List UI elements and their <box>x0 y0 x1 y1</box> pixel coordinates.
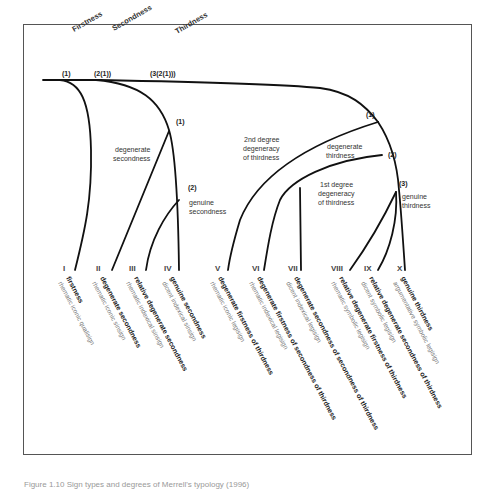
annotation-genuine-thirdness: genuine thirdness <box>402 193 431 209</box>
annotation-line: degenerate <box>327 143 363 151</box>
annotation-line: genuine <box>189 199 214 207</box>
roman-numeral: III <box>129 264 136 273</box>
roman-numeral: I <box>63 264 65 273</box>
roman-numeral: V <box>215 264 221 273</box>
class-name: degenerate secondness of secondness of t… <box>292 275 380 431</box>
sign-class-III: III relative degenerate secondness rhema… <box>124 264 189 373</box>
roman-numeral: VIII <box>331 264 343 273</box>
annotation-line: degeneracy <box>318 190 355 198</box>
annotation-degenerate-thirdness: degenerate thirdness <box>326 143 363 159</box>
thirdness-node-2: (2) <box>388 151 397 159</box>
annotation-line: secondness <box>189 208 227 215</box>
annotation-line: 1st degree <box>320 181 353 189</box>
roman-numeral: IX <box>364 264 372 273</box>
annotation-line: degenerate <box>115 146 151 154</box>
branch-thirdness <box>378 122 405 270</box>
secondness-node-2: (2) <box>188 184 197 192</box>
annotation-1st-degree-degeneracy: 1st degree degeneracy of thirdness <box>318 181 355 206</box>
annotation-line: of thirdness <box>318 199 355 206</box>
roman-numeral: VI <box>252 264 260 273</box>
thirdness-node-3: (3) <box>399 180 408 188</box>
branch-III <box>146 200 179 270</box>
roman-numeral: II <box>96 264 100 273</box>
roman-numeral: X <box>397 264 403 273</box>
branch-VI <box>264 155 382 270</box>
node-1: (1) <box>62 70 71 78</box>
annotation-genuine-secondness: genuine secondness <box>189 199 227 215</box>
annotation-line: 2nd degree <box>244 136 280 144</box>
sign-class-X: X genuine thirdness argumentative symbol… <box>391 264 441 366</box>
category-firstness: Firstness <box>71 9 104 33</box>
branch-VII <box>300 188 301 270</box>
node-3-2-1: (3(2(1))) <box>150 70 176 78</box>
branch-I <box>60 80 91 270</box>
node-2-1: (2(1)) <box>94 70 111 78</box>
category-thirdness: Thirdness <box>174 10 210 36</box>
annotation-degenerate-secondness: degenerate secondness <box>113 146 151 162</box>
annotation-line: thirdness <box>402 202 431 209</box>
annotation-2nd-degree-degeneracy: 2nd degree degeneracy of thirdness <box>243 136 280 161</box>
branch-VIII <box>350 192 396 270</box>
trunk-line <box>43 80 378 122</box>
annotation-line: degeneracy <box>243 145 280 153</box>
category-secondness: Secondness <box>111 3 154 33</box>
branch-secondness <box>96 80 179 270</box>
sign-class-I: I firstness rhematic iconic qualisign <box>56 264 96 347</box>
thirdness-node-1: (1) <box>366 111 375 119</box>
annotation-line: of thirdness <box>243 154 280 161</box>
category-labels: Firstness Secondness Thirdness <box>71 3 210 36</box>
roman-numeral: VII <box>288 264 298 273</box>
roman-numeral: IV <box>164 264 172 273</box>
annotation-line: genuine <box>402 193 427 201</box>
annotation-line: thirdness <box>326 152 355 159</box>
secondness-node-1: (1) <box>176 118 185 126</box>
annotation-line: secondness <box>113 155 151 162</box>
branch-IX <box>378 192 396 270</box>
figure-caption: Figure 1.10 Sign types and degrees of Me… <box>24 480 249 489</box>
sign-typology-diagram: Firstness Secondness Thirdness (1) (2(1)… <box>0 0 491 492</box>
